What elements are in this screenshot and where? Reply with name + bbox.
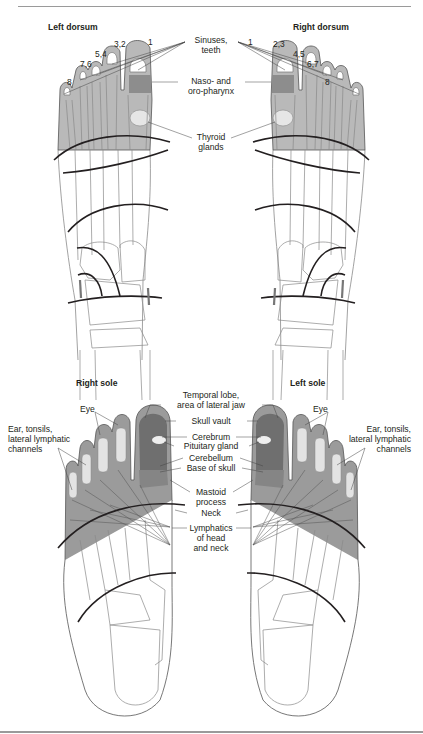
left-sole-foot: [238, 405, 365, 716]
toe-number: 5,4: [95, 49, 107, 59]
label-neck: Neck: [201, 508, 221, 518]
left-dorsum-foot: [54, 41, 170, 401]
label-eye-left-sole: Eye: [313, 404, 328, 414]
label-ear-tonsils-right-sole: Ear, tonsils,lateral lymphaticchannels: [8, 424, 70, 454]
right-sole-title: Right sole: [76, 378, 118, 388]
left-sole-title: Left sole: [290, 378, 325, 388]
toe-number: 7,6: [80, 59, 92, 69]
label-skull-vault: Skull vault: [191, 416, 230, 426]
toe-number: 4,5: [293, 49, 305, 59]
toe-number: 8: [67, 77, 72, 87]
toe-number: 3,2: [114, 39, 126, 49]
footer-rule: [0, 731, 423, 733]
label-mastoid-process: Mastoidprocess: [196, 487, 226, 507]
label-thyroid-glands: Thyroidglands: [197, 132, 226, 152]
label-eye-right-sole: Eye: [80, 404, 95, 414]
toe-number: 1: [248, 37, 253, 47]
left-dorsum-title: Left dorsum: [48, 22, 98, 32]
label-pituitary-gland: Pituitary gland: [184, 441, 238, 451]
toe-number: 8: [325, 77, 330, 87]
label-base-of-skull: Base of skull: [187, 463, 236, 473]
label-sinuses-teeth: Sinuses,teeth: [195, 35, 228, 55]
label-naso-oro-pharynx: Naso- andoro-pharynx: [188, 76, 234, 96]
label-temporal-lobe: Temporal lobe,area of lateral jaw: [177, 390, 245, 410]
label-lymphatics-head-neck: Lymphaticsof headand neck: [189, 523, 232, 553]
right-dorsum-title: Right dorsum: [293, 22, 349, 32]
label-ear-tonsils-left-sole: Ear, tonsils,lateral lymphaticchannels: [349, 424, 411, 454]
label-cerebellum: Cerebellum: [189, 453, 233, 463]
right-dorsum-foot: [253, 41, 369, 401]
toe-number: 6,7: [307, 59, 319, 69]
right-sole-foot: [58, 405, 185, 716]
toe-number: 2,3: [273, 39, 285, 49]
toe-number: 1: [148, 37, 153, 47]
foot-reflexology-diagram: [0, 0, 423, 734]
